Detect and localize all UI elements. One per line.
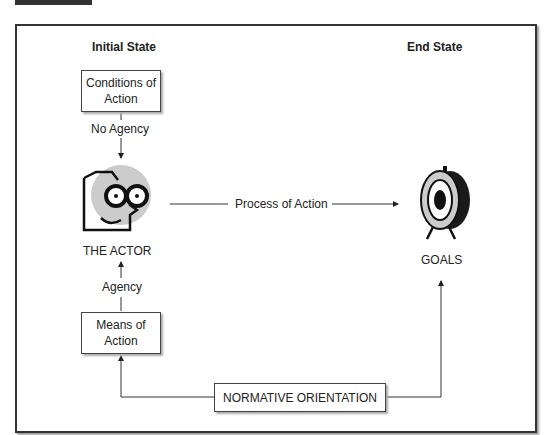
target-icon: [421, 166, 470, 239]
initial-state-header: Initial State: [92, 40, 156, 54]
no-agency-label: No Agency: [89, 122, 151, 136]
goals-label: GOALS: [419, 253, 464, 267]
connector-lines: [0, 0, 549, 435]
process-of-action-label: Process of Action: [233, 197, 330, 211]
agency-label: Agency: [100, 280, 144, 294]
conditions-label: Conditions of Action: [82, 75, 160, 107]
end-state-header: End State: [407, 40, 462, 54]
actor-label: THE ACTOR: [81, 244, 153, 258]
means-label: Means of Action: [82, 317, 160, 349]
conditions-of-action-box: Conditions of Action: [81, 70, 161, 112]
means-of-action-box: Means of Action: [81, 312, 161, 354]
actor-icon: [84, 165, 151, 230]
normative-orientation-box: NORMATIVE ORIENTATION: [214, 383, 386, 412]
normative-label: NORMATIVE ORIENTATION: [223, 390, 377, 406]
